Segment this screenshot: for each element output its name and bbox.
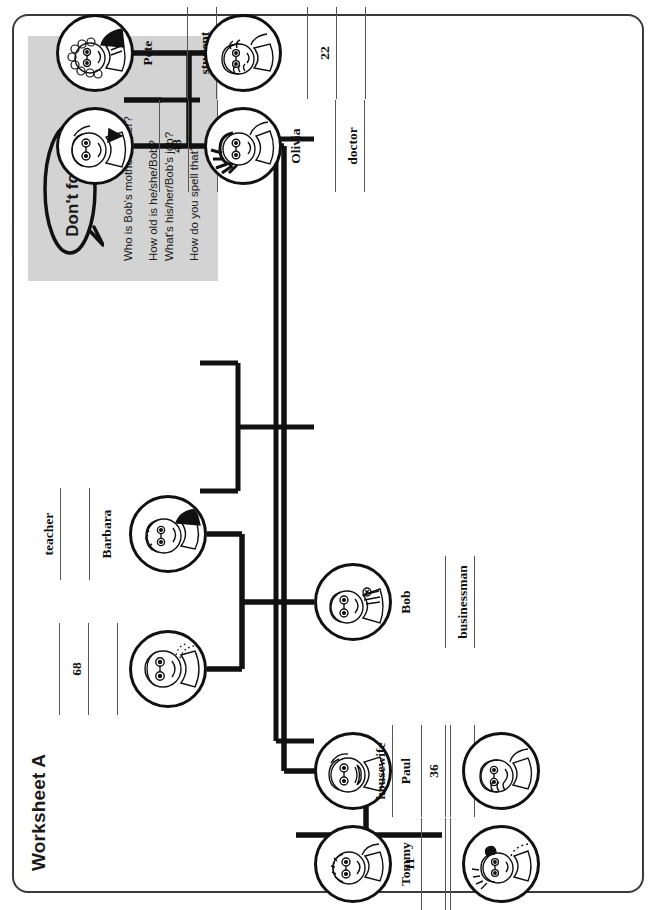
avatar: [314, 563, 392, 641]
person-labels: Bob businessman: [396, 556, 482, 648]
avatar: [56, 107, 134, 185]
age-line[interactable]: [166, 7, 188, 99]
family-tree-diagram: 68: [14, 12, 646, 891]
avatar: [462, 825, 540, 903]
age-line[interactable]: [400, 725, 422, 817]
name-line[interactable]: [138, 100, 160, 192]
job-line[interactable]: doctor: [343, 100, 365, 192]
person-olivia: Olivia doctor: [204, 107, 282, 185]
person-olivia-spouse: 48: [56, 107, 134, 185]
job-line[interactable]: [344, 7, 366, 99]
person-labels: 22: [286, 7, 373, 99]
name-line[interactable]: Pete: [138, 7, 159, 99]
avatar: [462, 732, 540, 810]
worksheet-page: Worksheet A Don't forget! Who is Bob's m…: [12, 14, 644, 893]
person-bob: Bob businessman: [314, 563, 392, 641]
person-tommy: Tommy: [314, 825, 392, 903]
age-line[interactable]: 48: [167, 100, 189, 192]
avatar: [204, 107, 282, 185]
age-line[interactable]: [424, 556, 446, 648]
avatar: [204, 14, 282, 92]
age-line[interactable]: 68: [67, 623, 89, 715]
name-line[interactable]: Olivia: [286, 100, 307, 192]
person-labels: housewife: [371, 725, 458, 817]
person-pete: Pete student: [56, 14, 134, 92]
person-tommy-sibling: 11: [462, 825, 540, 903]
job-line[interactable]: businessman: [453, 556, 475, 648]
name-line[interactable]: Bob: [396, 556, 417, 648]
age-line[interactable]: [68, 488, 90, 580]
person-labels: 11: [400, 818, 458, 910]
person-barbara: teacher Barbara: [129, 495, 207, 573]
name-line[interactable]: [429, 818, 451, 910]
name-line[interactable]: [429, 725, 451, 817]
person-pete-sibling: 22: [204, 14, 282, 92]
avatar: [56, 14, 134, 92]
name-line[interactable]: Barbara: [97, 488, 118, 580]
person-labels: 68: [38, 623, 125, 715]
person-labels: teacher Barbara: [39, 488, 125, 580]
avatar: [129, 495, 207, 573]
name-line[interactable]: [96, 623, 118, 715]
avatar: [314, 825, 392, 903]
avatar: [129, 630, 207, 708]
person-labels: Olivia doctor: [286, 100, 372, 192]
age-line[interactable]: [314, 100, 336, 192]
person-paul-spouse: housewife: [462, 732, 540, 810]
person-grandfather: 68: [129, 630, 207, 708]
name-line[interactable]: [286, 7, 308, 99]
job-line[interactable]: housewife: [371, 725, 393, 817]
age-line[interactable]: 22: [315, 7, 337, 99]
age-line[interactable]: 11: [400, 818, 422, 910]
job-line[interactable]: [38, 623, 60, 715]
job-line[interactable]: teacher: [39, 488, 61, 580]
